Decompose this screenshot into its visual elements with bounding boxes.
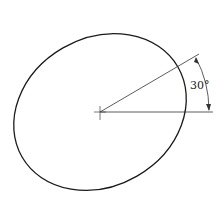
arrowhead-top <box>194 57 199 64</box>
arrowhead-bottom <box>206 104 211 111</box>
rotated-ellipse <box>0 3 215 206</box>
center-mark <box>94 106 106 120</box>
angle-label: 30° <box>190 79 210 92</box>
ellipse-diagram: 30° <box>0 0 216 206</box>
